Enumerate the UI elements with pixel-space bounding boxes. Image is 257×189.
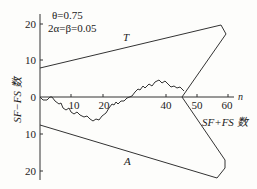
- x-tick-label-10: 10: [69, 99, 81, 111]
- y-tick-label-10-up: 10: [25, 54, 37, 66]
- x-tick-label-50: 50: [192, 99, 204, 111]
- y-tick-label-0: 0: [31, 91, 37, 103]
- label-A: A: [123, 155, 131, 167]
- y-tick-label-10-down: 10: [25, 128, 37, 140]
- chart-svg: 20 10 0 10 20 10 20 40 50 60 θ=0.75 2α=β…: [0, 0, 257, 189]
- boundary-T: [40, 25, 226, 97]
- x-axis-label-secondary: SF+FS 数: [202, 116, 250, 128]
- x-tick-label-40: 40: [161, 99, 173, 111]
- x-axis-label-n: n: [238, 91, 243, 102]
- theta-annotation: θ=0.75: [52, 9, 83, 21]
- label-T: T: [123, 31, 130, 43]
- sequential-test-chart: 20 10 0 10 20 10 20 40 50 60 θ=0.75 2α=β…: [0, 0, 257, 189]
- y-tick-label-20-down: 20: [25, 165, 37, 177]
- x-tick-label-60: 60: [222, 99, 234, 111]
- y-axis-label: SF−FS 数: [11, 75, 23, 123]
- alpha-beta-annotation: 2α=β=0.05: [48, 22, 97, 34]
- y-tick-label-20-up: 20: [25, 18, 37, 30]
